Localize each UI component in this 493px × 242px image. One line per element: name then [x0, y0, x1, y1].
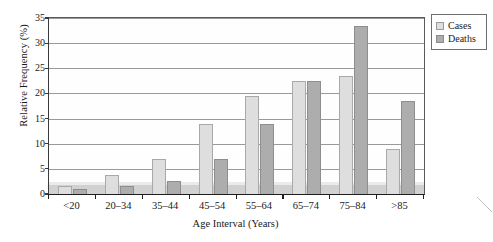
bar-group: [237, 18, 284, 194]
legend-item-deaths: Deaths: [436, 32, 483, 45]
bar-cases: [152, 159, 166, 194]
x-axis-tick-mark: [236, 194, 237, 199]
x-axis-tick-label: 75–84: [329, 200, 376, 211]
y-axis-tick-label: 10: [35, 139, 45, 149]
bar-group: [190, 18, 237, 194]
bar-groups: [49, 18, 424, 194]
y-axis-title: Relative Frequency (%): [18, 0, 29, 161]
x-axis-tick-mark: [95, 194, 96, 199]
x-axis-tick-mark: [189, 194, 190, 199]
legend-label-deaths: Deaths: [448, 32, 476, 45]
bar-cases: [292, 81, 306, 194]
bar-deaths: [260, 124, 274, 194]
bar-cases: [245, 96, 259, 194]
x-axis-tick-label: 65–74: [282, 200, 329, 211]
x-axis-tick-label: >85: [376, 200, 423, 211]
y-axis-tick-label: 20: [35, 88, 45, 98]
bar-deaths: [214, 159, 228, 194]
plot-area: 05101520253035: [48, 17, 425, 195]
scan-corner-artifact: [477, 196, 493, 212]
x-axis-tick-mark: [376, 194, 377, 199]
bar-group: [330, 18, 377, 194]
bar-group: [283, 18, 330, 194]
bar-group: [96, 18, 143, 194]
x-axis-tick-mark: [48, 194, 49, 199]
x-axis-tick-label: 35–44: [142, 200, 189, 211]
x-axis-tick-label: 20–34: [95, 200, 142, 211]
bar-cases: [386, 149, 400, 194]
x-axis-tick-mark: [329, 194, 330, 199]
x-axis-tick-mark: [423, 194, 424, 199]
bar-deaths: [120, 186, 134, 194]
x-axis-labels: <2020–3435–4445–5455–6465–7475–84>85: [48, 200, 423, 211]
y-axis-tick-label: 15: [35, 114, 45, 124]
y-axis-tick-label: 35: [35, 13, 45, 23]
bar-group: [377, 18, 424, 194]
legend-label-cases: Cases: [448, 19, 471, 32]
bar-group: [49, 18, 96, 194]
bar-deaths: [167, 181, 181, 194]
legend-item-cases: Cases: [436, 19, 483, 32]
bar-cases: [105, 175, 119, 194]
bar-group: [143, 18, 190, 194]
bar-cases: [199, 124, 213, 194]
x-axis-tick-label: 45–54: [189, 200, 236, 211]
bar-deaths: [307, 81, 321, 194]
y-axis-tick-label: 30: [35, 38, 45, 48]
x-axis-tick-label: <20: [48, 200, 95, 211]
bar-deaths: [401, 101, 415, 194]
legend-swatch-cases-icon: [436, 22, 444, 30]
x-axis-tick-label: 55–64: [236, 200, 283, 211]
y-axis-tick-label: 25: [35, 63, 45, 73]
bar-cases: [339, 76, 353, 194]
x-axis-tick-mark: [142, 194, 143, 199]
x-axis-tick-mark: [282, 194, 283, 199]
legend-swatch-deaths-icon: [436, 35, 444, 43]
bar-deaths: [354, 26, 368, 194]
x-axis-title: Age Interval (Years): [48, 218, 423, 229]
legend: Cases Deaths: [431, 14, 487, 50]
bar-chart: Relative Frequency (%) 05101520253035 <2…: [0, 0, 493, 242]
bar-cases: [58, 186, 72, 194]
